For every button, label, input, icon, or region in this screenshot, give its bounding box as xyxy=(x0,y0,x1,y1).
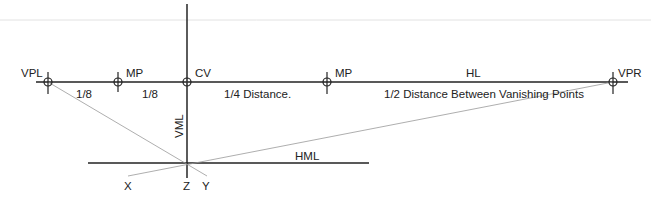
label-mp-right: MP xyxy=(335,67,353,79)
label-segment-3: 1/4 Distance. xyxy=(224,88,291,100)
label-vpr: VPR xyxy=(618,67,642,79)
label-segment-2: 1/8 xyxy=(142,88,158,100)
label-z: Z xyxy=(183,180,190,192)
vpr-marker xyxy=(609,72,617,94)
label-segment-4: 1/2 Distance Between Vanishing Points xyxy=(384,88,584,100)
label-vml: VML xyxy=(173,114,185,138)
label-segment-1: 1/8 xyxy=(76,88,92,100)
label-y: Y xyxy=(202,180,210,192)
vpl-marker xyxy=(44,72,52,94)
label-mp-left: MP xyxy=(126,67,144,79)
label-hml: HML xyxy=(295,150,320,162)
label-vpl: VPL xyxy=(21,67,43,79)
perspective-diagram: VPL MP CV MP HL VPR 1/8 1/8 1/4 Distance… xyxy=(0,0,651,204)
mp-right-marker xyxy=(323,72,331,94)
label-cv: CV xyxy=(195,67,211,79)
label-hl: HL xyxy=(466,67,481,79)
label-x: X xyxy=(124,180,132,192)
